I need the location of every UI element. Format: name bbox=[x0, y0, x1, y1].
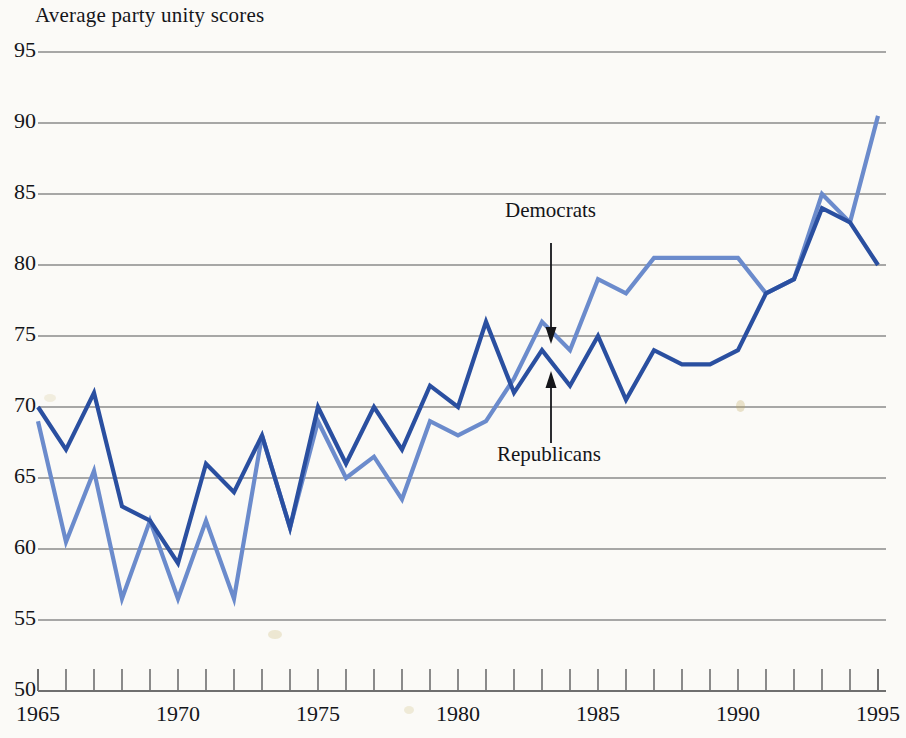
x-tick-label-1980: 1980 bbox=[418, 701, 498, 727]
y-tick-label-80: 80 bbox=[0, 250, 36, 276]
y-tick-label-70: 70 bbox=[0, 392, 36, 418]
chart-figure: Average party unity scores 9590858075706… bbox=[0, 0, 906, 738]
y-tick-label-95: 95 bbox=[0, 37, 36, 63]
x-tick-label-1985: 1985 bbox=[558, 701, 638, 727]
gridlines-group bbox=[38, 52, 886, 620]
x-axis-ticks-group bbox=[38, 669, 878, 691]
x-tick-label-1990: 1990 bbox=[698, 701, 778, 727]
series-line-democrats bbox=[38, 116, 878, 599]
y-tick-label-60: 60 bbox=[0, 534, 36, 560]
republicans-series-label: Republicans bbox=[497, 442, 601, 467]
y-tick-label-90: 90 bbox=[0, 108, 36, 134]
republicans-arrow-head bbox=[546, 371, 557, 388]
y-tick-label-75: 75 bbox=[0, 321, 36, 347]
series-lines-group bbox=[38, 116, 878, 599]
chart-plot-area bbox=[0, 0, 906, 738]
x-tick-label-1975: 1975 bbox=[278, 701, 358, 727]
y-tick-label-50: 50 bbox=[0, 676, 36, 702]
x-tick-label-1970: 1970 bbox=[138, 701, 218, 727]
x-tick-label-1965: 1965 bbox=[0, 701, 78, 727]
annotation-arrows-group bbox=[546, 243, 557, 443]
x-tick-label-1995: 1995 bbox=[838, 701, 906, 727]
series-line-republicans bbox=[38, 208, 878, 563]
y-tick-label-55: 55 bbox=[0, 605, 36, 631]
democrats-series-label: Democrats bbox=[505, 198, 596, 223]
y-tick-label-85: 85 bbox=[0, 179, 36, 205]
y-tick-label-65: 65 bbox=[0, 463, 36, 489]
